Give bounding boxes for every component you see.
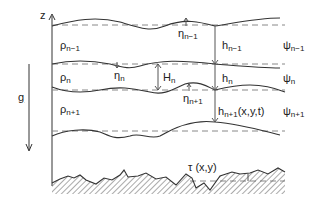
thickness-label-1: hn [222,73,233,86]
gravity-label: g [18,92,24,103]
thickness-label-2: hn+1(x,y,t) [218,106,264,119]
stream-label-0: ψn−1 [283,40,304,53]
thickness-label-0: hn−1 [222,40,242,53]
density-label-layer-2: ρn+1 [60,104,80,117]
bottom-topography [52,168,285,194]
interface-n2 [52,122,280,138]
density-label-layer-1: ρn [60,72,71,85]
stream-label-1: ψn [283,73,295,86]
gravity-arrow [26,64,32,151]
density-label-layer-0: ρn−1 [60,40,80,53]
stream-label-2: ψn+1 [283,106,304,119]
eta-label-1: ηn [114,70,125,83]
bottom-stress-label: τ (x,y) [188,162,217,173]
eta-label-2: ηn+1 [183,93,203,106]
mean-thickness-label: Hn [163,72,175,85]
z-axis-label: z [40,10,46,21]
diagram-canvas [0,0,319,211]
mean-levels [52,25,285,181]
eta-label-0: ηn−1 [178,28,198,41]
interface-top [52,18,280,29]
z-axis [49,14,55,186]
